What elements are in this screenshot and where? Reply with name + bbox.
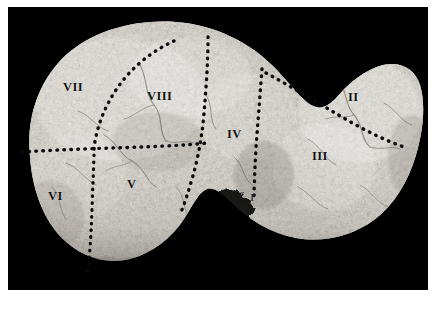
segment-label-vii: VII xyxy=(63,81,83,94)
segment-label-viii: VIII xyxy=(147,90,172,103)
segment-label-iii: III xyxy=(312,150,328,163)
liver-photograph-plate: VII VIII IV II III V VI I xyxy=(8,7,428,290)
figure-root: VII VIII IV II III V VI I xyxy=(0,0,436,318)
segment-label-iv: IV xyxy=(227,128,242,141)
segment-label-vi: VI xyxy=(48,190,63,203)
segment-label-v: V xyxy=(127,178,136,191)
liver-specimen-illustration xyxy=(8,7,428,290)
segment-label-i: I xyxy=(250,192,255,203)
segment-label-ii: II xyxy=(348,91,359,104)
